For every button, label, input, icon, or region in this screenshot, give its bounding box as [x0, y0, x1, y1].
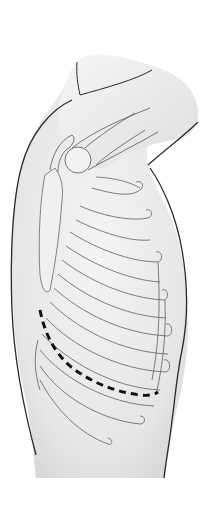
anatomical-illustration	[0, 0, 212, 509]
torso-lateral-drawing	[0, 0, 212, 509]
humeral-head	[65, 147, 91, 173]
